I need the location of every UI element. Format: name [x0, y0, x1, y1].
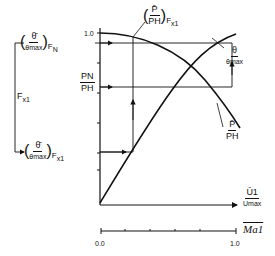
theta-fx1-label: ( θ̄ θmax ) Fx1: [24, 139, 64, 162]
p-curve-label: P̄ PH: [226, 120, 239, 141]
x-tick-start: 0.0: [95, 240, 105, 247]
pn-ph-label: PN PH: [80, 72, 95, 93]
fx1-label: Fx1: [17, 92, 30, 103]
y-tick-label: 1.0: [84, 30, 94, 37]
p-fx1-label: ( P̄ PH ) Fx1: [143, 4, 178, 27]
x-tick-end: 1.0: [230, 240, 240, 247]
theta-curve-label: θ θmax: [226, 46, 243, 65]
u1-axis-label: Ū1 Umax: [243, 188, 261, 207]
pressure-ratio-curve: [100, 33, 240, 128]
temperature-ratio-curve: [100, 34, 236, 203]
ma-axis-label: Ma1: [243, 224, 263, 235]
theta-fn-label: ( θ̄ θmax ) FN: [20, 30, 58, 53]
